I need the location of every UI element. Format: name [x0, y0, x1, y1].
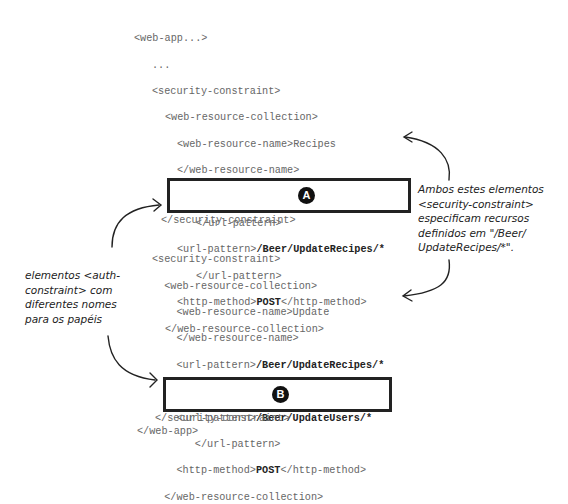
code-line: <http-method>POST</http-method>: [152, 464, 384, 477]
arrow-to-box-b: [108, 336, 155, 380]
code-line: </web-resource-collection>: [152, 491, 384, 504]
arrow-to-box-a: [112, 205, 159, 247]
arrow-to-block1-pattern: [405, 137, 449, 180]
